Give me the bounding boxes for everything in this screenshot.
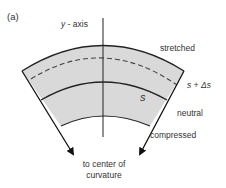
neutral-arc-label: s bbox=[140, 92, 146, 103]
arrow-caption-line2: curvature bbox=[70, 171, 138, 180]
neutral-label: neutral bbox=[177, 109, 203, 118]
dashed-arc-label: s + Δs bbox=[187, 81, 211, 90]
arrow-caption-line1: to center of bbox=[70, 160, 138, 169]
panel-label: (a) bbox=[7, 12, 19, 22]
compressed-label: compressed bbox=[150, 131, 196, 140]
stretched-label: stretched bbox=[160, 44, 195, 53]
y-axis-label: y - axis bbox=[61, 20, 88, 29]
y-axis-label-text: - axis bbox=[65, 19, 88, 29]
